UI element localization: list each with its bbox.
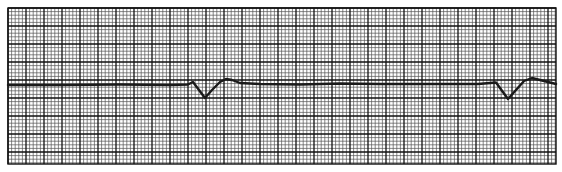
ecg-strip <box>0 0 562 172</box>
